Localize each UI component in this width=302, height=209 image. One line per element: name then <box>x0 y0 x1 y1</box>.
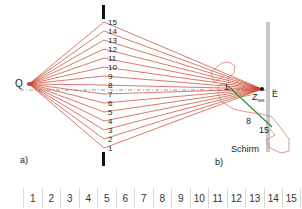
path-number-6: 6 <box>108 99 113 108</box>
strip-cell-5: 5 <box>97 188 116 208</box>
end-point <box>260 87 264 91</box>
path-number-5: 5 <box>108 108 113 117</box>
path-number-9: 9 <box>108 72 113 81</box>
strip-cell-13: 13 <box>245 188 264 208</box>
source-label: Q <box>15 78 23 89</box>
strip-cell-7: 7 <box>134 188 153 208</box>
strip-cell-14: 14 <box>264 188 283 208</box>
resultant-label: Zres <box>252 92 265 103</box>
screen-label: Schirm <box>231 144 259 154</box>
strip-cell-11: 11 <box>208 188 227 208</box>
strip-cell-1: 1 <box>23 188 42 208</box>
strip-cell-12: 12 <box>227 188 246 208</box>
part-b-label: b) <box>215 157 223 167</box>
strip-cell-2: 2 <box>42 188 61 208</box>
path-number-1: 1 <box>108 144 113 153</box>
strip-cell-8: 8 <box>153 188 172 208</box>
path-number-15: 15 <box>108 18 117 27</box>
strip-cell-6: 6 <box>116 188 135 208</box>
path-number-strip: 123456789101112131415 <box>23 188 301 208</box>
path-number-3: 3 <box>108 126 113 135</box>
path-number-8: 8 <box>108 81 113 90</box>
phasor-end-label: 15 <box>259 125 269 135</box>
strip-cell-15: 15 <box>282 188 301 208</box>
path-number-10: 10 <box>108 63 117 72</box>
phasor-chain <box>211 62 289 153</box>
slit-barrier-top <box>102 5 105 19</box>
end-label: E <box>272 89 278 99</box>
path-number-13: 13 <box>108 36 117 45</box>
path-number-11: 11 <box>108 54 117 63</box>
path-number-2: 2 <box>108 135 113 144</box>
source-point <box>27 82 31 86</box>
path-number-12: 12 <box>108 45 117 54</box>
part-a-label: a) <box>20 155 28 165</box>
slit-barrier-bottom <box>102 152 105 166</box>
phasor-mid-label: 8 <box>246 116 251 126</box>
strip-cell-10: 10 <box>190 188 209 208</box>
strip-cell-3: 3 <box>60 188 79 208</box>
phasor-start-label: 1 <box>224 82 229 92</box>
strip-cell-4: 4 <box>79 188 98 208</box>
path-number-4: 4 <box>108 117 113 126</box>
path-number-7: 7 <box>108 90 113 99</box>
strip-cell-9: 9 <box>171 188 190 208</box>
path-number-14: 14 <box>108 27 117 36</box>
huygens-paths-diagram: 123456789101112131415 Q E Schirm a) 1 8 … <box>0 0 302 170</box>
